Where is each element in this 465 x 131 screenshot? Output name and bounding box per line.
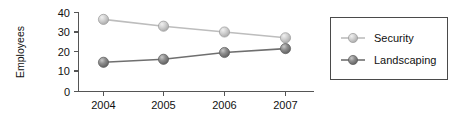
y-tick-label-10: 10: [58, 65, 70, 77]
chart-canvas: Employees 40 30 20 10 0 2004 2005: [0, 0, 465, 131]
y-tick-label-40: 40: [58, 7, 70, 19]
y-axis-title-label: Employees: [14, 26, 26, 78]
data-point-landscaping-2007: [280, 44, 290, 54]
data-point-landscaping-2004: [98, 57, 108, 67]
legend-marker-icon-landscaping: [348, 55, 357, 64]
line-chart-figure: Employees 40 30 20 10 0 2004 2005: [0, 0, 465, 131]
y-axis-ticks: 40 30 20 10 0: [58, 7, 79, 98]
data-point-landscaping-2006: [219, 47, 229, 57]
x-axis-ticks: 2004 2005 2006 2007: [91, 92, 297, 112]
y-tick-label-30: 30: [58, 26, 70, 38]
series-security-line: [104, 19, 286, 37]
x-tick-label-2007: 2007: [273, 99, 297, 111]
data-point-security-2006: [219, 27, 229, 37]
data-point-landscaping-2005: [158, 54, 168, 64]
y-tick-label-20: 20: [58, 46, 70, 58]
x-tick-label-2006: 2006: [212, 99, 236, 111]
legend-item-security[interactable]: Security: [341, 32, 414, 44]
data-point-security-2005: [158, 21, 168, 31]
y-tick-label-0: 0: [64, 86, 70, 98]
legend-label-landscaping: Landscaping: [374, 54, 436, 66]
legend-item-landscaping[interactable]: Landscaping: [341, 54, 436, 66]
data-point-security-2007: [280, 33, 290, 43]
series-landscaping-line: [104, 49, 286, 63]
series-security: [98, 14, 290, 43]
x-tick-label-2004: 2004: [91, 99, 115, 111]
legend-label-security: Security: [374, 32, 414, 44]
series-landscaping: [98, 44, 290, 68]
legend-marker-icon-security: [348, 33, 357, 42]
data-point-security-2004: [98, 14, 108, 24]
x-tick-label-2005: 2005: [151, 99, 175, 111]
y-axis-title: Employees: [14, 26, 26, 78]
legend-border-box: [331, 18, 448, 80]
chart-legend: Security Landscaping: [331, 18, 448, 80]
